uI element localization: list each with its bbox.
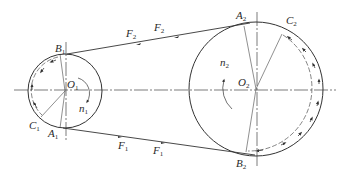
- belt-drive-diagram: B1 A1 C1 O1 n1 A2 C2 B2 O2 n2 F2 F2 F1 F…: [0, 0, 344, 176]
- arrow-large-5: [317, 102, 318, 106]
- label-c1: C1: [29, 119, 40, 133]
- label-n1: n1: [79, 102, 89, 116]
- arrow-large-2: [303, 49, 306, 52]
- label-force-upper-2: F2: [153, 21, 165, 35]
- arrow-large-3: [313, 64, 315, 68]
- radius-o1-c1: [41, 91, 65, 117]
- label-force-upper-1: F2: [125, 27, 137, 41]
- radius-o2-b2: [246, 89, 256, 152]
- arrow-small-4: [34, 103, 37, 108]
- label-force-lower-1: F1: [117, 139, 129, 153]
- label-b1: B1: [55, 42, 66, 56]
- label-n2: n2: [220, 56, 230, 70]
- label-c2: C2: [286, 14, 297, 28]
- arrow-small-2: [41, 68, 44, 72]
- arrow-large-9: [257, 150, 263, 151]
- label-force-lower-2: F1: [152, 144, 164, 158]
- slip-arc-small: [31, 57, 58, 115]
- slip-arc-large: [248, 35, 312, 151]
- force-arrow-upper-1: [136, 43, 141, 45]
- arrow-large-8: [281, 143, 285, 145]
- label-o1: O1: [67, 78, 79, 92]
- arrow-large-7: [298, 133, 301, 136]
- arrow-small-1: [51, 60, 56, 62]
- force-arrow-upper-2: [174, 36, 179, 38]
- rotation-arrow-n2: [223, 80, 232, 109]
- label-o2: O2: [238, 76, 250, 90]
- diagram-canvas: B1 A1 C1 O1 n1 A2 C2 B2 O2 n2 F2 F2 F1 F…: [0, 0, 344, 176]
- radius-o1-a1: [60, 91, 65, 128]
- label-a1: A1: [47, 127, 59, 141]
- arrow-large-1: [288, 37, 292, 40]
- label-b2: B2: [236, 157, 247, 171]
- radius-o1-b1: [60, 54, 65, 91]
- label-a2: A2: [235, 9, 247, 23]
- radius-o2-c2: [256, 34, 282, 89]
- arrow-large-6: [310, 118, 312, 122]
